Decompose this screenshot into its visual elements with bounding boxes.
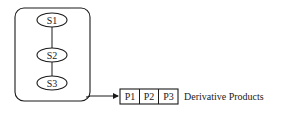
node-s2-label: S2	[47, 50, 58, 61]
node-s2: S2	[37, 48, 67, 62]
node-s3-label: S3	[47, 78, 58, 89]
product-p1: P1	[125, 91, 136, 102]
arrow-to-products	[86, 96, 118, 97]
product-p2: P2	[144, 91, 155, 102]
product-boxes: P1 P2 P3	[120, 89, 178, 104]
diagram-canvas: S1 S2 S3 P1 P2 P3 Derivative Products	[0, 0, 282, 114]
product-p3: P3	[163, 91, 174, 102]
node-s1-label: S1	[47, 15, 58, 26]
node-s3: S3	[37, 76, 67, 90]
products-caption: Derivative Products	[184, 91, 264, 102]
node-s1: S1	[37, 13, 67, 27]
